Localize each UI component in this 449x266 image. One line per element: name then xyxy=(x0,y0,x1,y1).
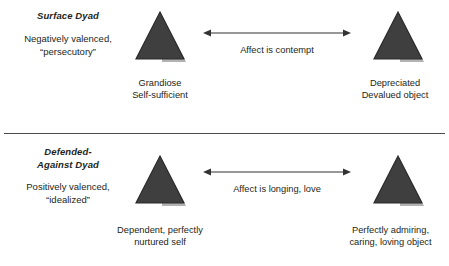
section-divider xyxy=(4,133,445,134)
defended-against-dyad-affect-label: Affect is longing, love xyxy=(199,183,355,195)
surface-dyad-left-caption: Grandiose Self-sufficient xyxy=(108,77,212,102)
surface-dyad-title: Surface Dyad xyxy=(6,10,130,23)
surface-dyad-right-caption: Depreciated Devalued object xyxy=(340,77,449,102)
surface-dyad-left-triangle-icon xyxy=(134,9,186,63)
defended-against-dyad-description: Positively valenced, “idealized” xyxy=(4,180,132,206)
defended-against-dyad-title: Defended- Against Dyad xyxy=(6,146,130,171)
defended-against-dyad-arrow xyxy=(203,166,351,178)
defended-against-dyad-right-triangle-icon xyxy=(372,153,424,207)
surface-dyad-right-triangle-icon xyxy=(372,9,424,63)
defended-against-dyad-left-caption: Dependent, perfectly nurtured self xyxy=(100,224,220,249)
surface-dyad-affect-label: Affect is contempt xyxy=(203,44,351,56)
dyad-diagram: Surface Dyad Negatively valenced, “perse… xyxy=(0,0,449,266)
defended-against-dyad-right-caption: Perfectly admiring, caring, loving objec… xyxy=(332,224,449,249)
defended-against-dyad-left-triangle-icon xyxy=(134,153,186,207)
surface-dyad-description: Negatively valenced, “persecutory” xyxy=(4,32,132,58)
surface-dyad-arrow xyxy=(203,27,351,39)
